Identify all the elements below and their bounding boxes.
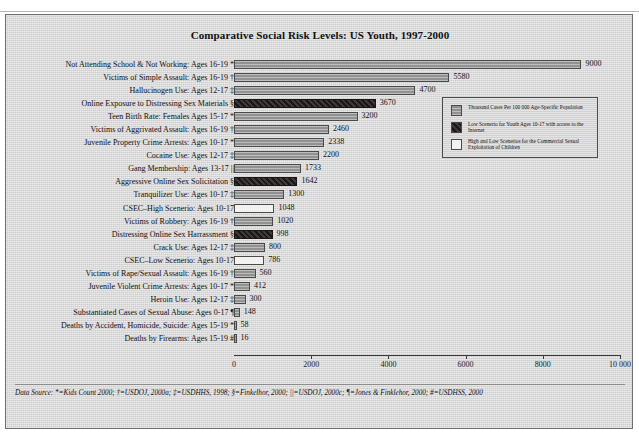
category-label: Deaths by Accident, Homicide, Suicide: A… xyxy=(2,320,234,331)
x-axis-line xyxy=(234,355,620,356)
x-tick-label: 8000 xyxy=(535,360,551,369)
chart-legend: Thousand Cases Per 100 000 Age-Specific … xyxy=(442,97,598,158)
bar-value-label: 58 xyxy=(241,320,249,329)
x-tick xyxy=(543,355,544,359)
category-label: Cocaine Use: Ages 12-17 ‡ xyxy=(2,150,234,161)
data-source-note: Data Source: *=Kids Count 2000; †=USDOJ,… xyxy=(15,389,625,399)
bar-value-label: 1642 xyxy=(301,176,317,185)
x-tick-label: 2000 xyxy=(303,360,319,369)
bar-row: Hallucinogen Use: Ages 12-17 ‡4700 xyxy=(6,84,634,97)
category-label: Online Exposure to Distressing Sex Mater… xyxy=(2,98,234,109)
category-label: Juvenile Property Crime Arrests: Ages 10… xyxy=(2,137,234,148)
bar-row: Aggressive Online Sex Solicitation §1642 xyxy=(6,175,634,188)
bar xyxy=(234,112,358,121)
bar-value-label: 2338 xyxy=(328,137,344,146)
bar xyxy=(234,151,319,160)
legend-swatch-dark-icon xyxy=(451,122,462,133)
legend-label-dark: Low Scenerio for Youth Ages 10-17 with a… xyxy=(468,121,594,133)
category-label: Gang Membership: Ages 13-17 || xyxy=(2,163,234,174)
category-label: CSEC–Low Scenerio: Ages 10-17 xyxy=(2,255,234,266)
bar-row: Deaths by Firearms: Ages 15-19 #16 xyxy=(6,332,634,345)
bar xyxy=(234,204,274,213)
bar-value-label: 560 xyxy=(260,268,272,277)
running-page-header xyxy=(0,0,639,13)
bar-row: Substantiated Cases of Sexual Abuse: Age… xyxy=(6,306,634,319)
bar xyxy=(234,177,297,186)
figure-page: Comparative Social Risk Levels: US Youth… xyxy=(0,0,639,437)
bar xyxy=(234,243,265,252)
bar-row: Deaths by Accident, Homicide, Suicide: A… xyxy=(6,319,634,332)
category-label: Not Attending School & Not Working: Ages… xyxy=(2,59,234,70)
bar xyxy=(234,334,237,343)
bar-value-label: 1020 xyxy=(277,216,293,225)
bar-row: Distressing Online Sex Harrassment §998 xyxy=(6,228,634,241)
bar xyxy=(234,230,273,239)
bar-row: Victims of Rape/Sexual Assault: Ages 16-… xyxy=(6,267,634,280)
x-tick xyxy=(620,355,621,359)
category-label: Tranquilizer Use: Ages 10-17 ‡ xyxy=(2,189,234,200)
x-tick-label: 6000 xyxy=(458,360,474,369)
bar xyxy=(234,295,246,304)
category-label: Substantiated Cases of Sexual Abuse: Age… xyxy=(2,307,234,318)
bar xyxy=(234,164,301,173)
bar xyxy=(234,217,273,226)
bar-value-label: 5580 xyxy=(453,72,469,81)
category-label: Deaths by Firearms: Ages 15-19 # xyxy=(2,333,234,344)
bar-value-label: 16 xyxy=(241,333,249,342)
bar-row: Heroin Use: Ages 12-17 ‡300 xyxy=(6,293,634,306)
bar xyxy=(234,190,284,199)
bar-value-label: 3200 xyxy=(362,111,378,120)
bar-value-label: 412 xyxy=(254,281,266,290)
bar-value-label: 2200 xyxy=(323,150,339,159)
x-tick xyxy=(388,355,389,359)
category-label: Teen Birth Rate: Females Ages 15-17 * xyxy=(2,111,234,122)
legend-item-dark: Low Scenerio for Youth Ages 10-17 with a… xyxy=(451,121,593,136)
bar-row: CSEC–Low Scenerio: Ages 10-17786 xyxy=(6,254,634,267)
bar-value-label: 3670 xyxy=(380,98,396,107)
bar-value-label: 148 xyxy=(244,307,256,316)
bar xyxy=(234,73,449,82)
legend-item-gray: Thousand Cases Per 100 000 Age-Specific … xyxy=(451,104,593,119)
category-label: Distressing Online Sex Harrassment § xyxy=(2,229,234,240)
x-tick-label: 0 xyxy=(232,360,236,369)
bar xyxy=(234,60,581,69)
legend-swatch-gray-icon xyxy=(451,105,462,116)
bar-value-label: 1300 xyxy=(288,189,304,198)
category-label: Victims of Rape/Sexual Assault: Ages 16-… xyxy=(2,268,234,279)
header-rule xyxy=(0,11,639,12)
bar-row: Juvenile Violent Crime Arrests: Ages 10-… xyxy=(6,280,634,293)
bar-value-label: 800 xyxy=(269,242,281,251)
category-label: Victims of Simple Assault: Ages 16-19 † xyxy=(2,72,234,83)
bar-chart-plot: Not Attending School & Not Working: Ages… xyxy=(6,15,634,430)
bar-row: Victims of Simple Assault: Ages 16-19 †5… xyxy=(6,71,634,84)
category-label: Juvenile Violent Crime Arrests: Ages 10-… xyxy=(2,281,234,292)
bar xyxy=(234,256,264,265)
bar-value-label: 1733 xyxy=(305,163,321,172)
x-tick xyxy=(466,355,467,359)
x-tick-label: 4000 xyxy=(380,360,396,369)
bar-row: Crack Use: Ages 12-17 ‡800 xyxy=(6,241,634,254)
bar-row: Not Attending School & Not Working: Ages… xyxy=(6,58,634,71)
category-label: Victims of Aggrivated Assault: Ages 16-1… xyxy=(2,124,234,135)
bar-value-label: 300 xyxy=(250,294,262,303)
note-divider xyxy=(15,384,625,385)
bar xyxy=(234,321,237,330)
bar-value-label: 786 xyxy=(268,255,280,264)
bar xyxy=(234,308,240,317)
bar-row: Tranquilizer Use: Ages 10-17 ‡1300 xyxy=(6,188,634,201)
category-label: CSEC–High Scenerio: Ages 10-17 xyxy=(2,203,234,214)
bar xyxy=(234,269,256,278)
legend-swatch-white-icon xyxy=(451,139,462,150)
category-label: Aggressive Online Sex Solicitation § xyxy=(2,176,234,187)
category-label: Crack Use: Ages 12-17 ‡ xyxy=(2,242,234,253)
bar xyxy=(234,86,415,95)
bar xyxy=(234,282,250,291)
category-label: Victims of Robbery: Ages 16-19 † xyxy=(2,216,234,227)
legend-label-gray: Thousand Cases Per 100 000 Age-Specific … xyxy=(468,104,594,110)
bar xyxy=(234,138,324,147)
bar-value-label: 998 xyxy=(277,229,289,238)
bar-value-label: 2460 xyxy=(333,124,349,133)
bar-row: Gang Membership: Ages 13-17 ||1733 xyxy=(6,162,634,175)
bar xyxy=(234,99,376,108)
legend-item-white: High and Low Scenerios for the Commercia… xyxy=(451,138,593,153)
